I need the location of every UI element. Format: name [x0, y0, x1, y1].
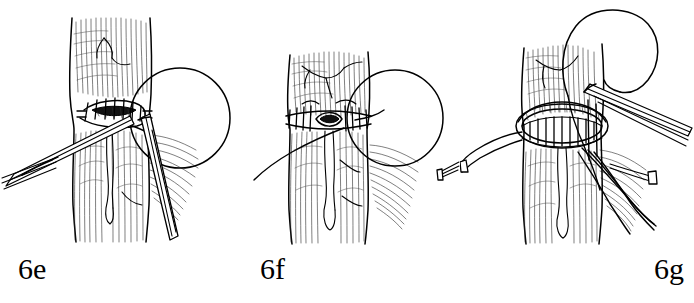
- panel-6e: 6e: [0, 0, 240, 303]
- large-suture-loop-tail: [604, 80, 620, 92]
- large-suture-loop: [563, 10, 658, 96]
- ring-interrupted-sutures: [530, 117, 594, 146]
- central-ridge-2: [563, 148, 568, 238]
- suture-loop-circle: [347, 70, 443, 166]
- forceps-instrument: [138, 114, 178, 240]
- panel-6g-illustration: [460, 0, 694, 250]
- panel-6f-illustration: [240, 0, 460, 250]
- tube-left-border: [522, 48, 526, 244]
- tube-left-border: [70, 18, 76, 242]
- needle-holder-instrument: [2, 116, 134, 189]
- central-ridge-2: [333, 131, 335, 210]
- completed-suture-line: [286, 106, 371, 131]
- panel-6f: 6f: [240, 0, 460, 303]
- upper-tissue-shading: [74, 31, 117, 80]
- panel-label-6f: 6f: [260, 254, 285, 284]
- upper-tissue-hatching: [76, 18, 147, 97]
- residual-opening-lumen: [320, 115, 339, 123]
- vessel-markings-upper: [536, 56, 578, 88]
- vessel-markings-upper: [302, 62, 362, 98]
- trailing-suture-thread: [254, 128, 344, 180]
- lower-tissue-shading: [78, 146, 142, 188]
- central-ridge: [557, 148, 563, 238]
- left-traction-suture: [460, 132, 522, 172]
- panel-6e-illustration: [0, 0, 240, 250]
- instrument-tip-right: [437, 162, 459, 180]
- posterior-tissue-hatching: [370, 145, 418, 229]
- panel-label-6g: 6g: [654, 254, 684, 284]
- traction-suture-vertical-2: [596, 104, 597, 156]
- tube-right-border: [599, 44, 604, 244]
- upper-tissue-shading: [526, 56, 566, 94]
- panel-label-6e: 6e: [18, 254, 46, 284]
- figure-root: 6e: [0, 0, 694, 303]
- panel-6g: 6g: [460, 0, 694, 303]
